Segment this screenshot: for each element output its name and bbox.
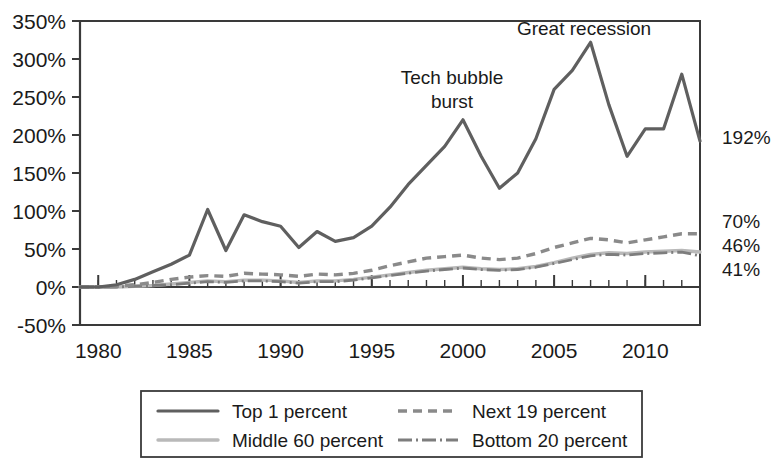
chart-figure: 350% 300% 250% 200% 150% 100% 50% 0% -50… (0, 0, 772, 467)
legend-label: Middle 60 percent (232, 430, 384, 451)
y-tick-label: 300% (12, 48, 66, 71)
legend-entry-top-1-percent[interactable]: Top 1 percent (158, 401, 348, 422)
legend-entry-bottom-20-percent[interactable]: Bottom 20 percent (398, 430, 628, 451)
legend-entry-middle-60-percent[interactable]: Middle 60 percent (158, 430, 384, 451)
y-tick-label: 200% (12, 124, 66, 147)
legend: Top 1 percent Next 19 percent Middle 60 … (141, 391, 642, 457)
x-tick-label: 1995 (348, 339, 395, 362)
y-axis-ticks (72, 21, 80, 325)
end-label-next-19-percent: 70% (722, 211, 760, 232)
x-axis-tick-labels: 1980198519901995200020052010 (75, 339, 669, 362)
series-line-top-1-percent (80, 42, 700, 287)
y-tick-label: 0% (36, 276, 66, 299)
y-tick-label: 50% (24, 238, 66, 261)
annotation-line: Great recession (517, 18, 651, 39)
annotation-line: Tech bubble (401, 67, 503, 88)
end-label-top-1-percent: 192% (722, 127, 771, 148)
x-tick-label: 1980 (75, 339, 122, 362)
y-axis-tick-labels: 350% 300% 250% 200% 150% 100% 50% 0% -50… (12, 10, 66, 337)
end-label-middle-60-percent: 46% (722, 235, 760, 256)
legend-entry-next-19-percent[interactable]: Next 19 percent (398, 401, 607, 422)
y-tick-label: -50% (17, 314, 66, 337)
series-group (80, 42, 700, 287)
x-tick-label: 1985 (166, 339, 213, 362)
x-tick-label: 2005 (531, 339, 578, 362)
legend-label: Next 19 percent (472, 401, 607, 422)
chart-svg: 350% 300% 250% 200% 150% 100% 50% 0% -50… (0, 0, 772, 467)
y-tick-label: 350% (12, 10, 66, 33)
annotation-line: burst (431, 91, 474, 112)
x-tick-label: 2010 (622, 339, 669, 362)
right-end-labels: 192% 70% 46% 41% (722, 127, 771, 280)
chart-page: 350% 300% 250% 200% 150% 100% 50% 0% -50… (0, 0, 772, 467)
end-label-bottom-20-percent: 41% (722, 259, 760, 280)
y-tick-label: 250% (12, 86, 66, 109)
series-line-next-19-percent (80, 234, 700, 287)
y-tick-label: 150% (12, 162, 66, 185)
annotation-great-recession: Great recession (517, 18, 651, 39)
x-tick-label: 2000 (440, 339, 487, 362)
legend-label: Top 1 percent (232, 401, 348, 422)
legend-label: Bottom 20 percent (472, 430, 628, 451)
y-tick-label: 100% (12, 200, 66, 223)
x-tick-label: 1990 (257, 339, 304, 362)
annotation-tech-bubble-burst: Tech bubble burst (401, 67, 503, 112)
